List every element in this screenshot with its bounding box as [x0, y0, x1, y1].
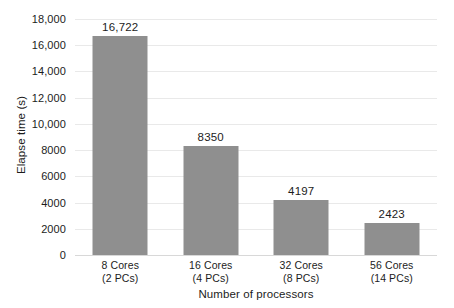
bar-slot: 4197: [256, 19, 347, 255]
x-axis-category-line: 32 Cores: [280, 259, 323, 272]
bar-slot: 2423: [347, 19, 438, 255]
y-axis-tick-label: 18,000: [32, 13, 66, 25]
x-axis-title: Number of processors: [75, 288, 437, 300]
bar-value-label: 4197: [288, 185, 314, 197]
bar[interactable]: [93, 36, 148, 255]
y-axis-tick-label: 14,000: [32, 65, 66, 77]
bar-value-label: 16,722: [102, 21, 138, 33]
gridline: [75, 255, 437, 256]
bar-chart: Elapse time (s) 18,00016,00014,00012,000…: [0, 0, 454, 308]
x-axis-category-line: 8 Cores: [102, 259, 139, 272]
x-axis-category-labels: 8 Cores(2 PCs)16 Cores(4 PCs)32 Cores(8 …: [75, 259, 437, 289]
y-axis-tick-label: 4000: [41, 197, 66, 209]
x-axis-category-line: (2 PCs): [102, 272, 139, 285]
y-axis-tick-label: 8000: [41, 144, 66, 156]
x-axis-category-line: 16 Cores: [189, 259, 232, 272]
bar-value-label: 8350: [198, 131, 224, 143]
y-axis-tick-label: 0: [60, 249, 66, 261]
y-axis-tick-label: 10,000: [32, 118, 66, 130]
y-axis-tick-label: 16,000: [32, 39, 66, 51]
y-axis-tick-label: 6000: [41, 170, 66, 182]
x-axis-category-label: 16 Cores(4 PCs): [189, 259, 232, 285]
x-axis-category-label: 56 Cores(14 PCs): [370, 259, 413, 285]
bar-slot: 8350: [166, 19, 257, 255]
x-axis-category-label: 32 Cores(8 PCs): [280, 259, 323, 285]
y-axis-tick-label: 12,000: [32, 92, 66, 104]
y-axis-tick-label: 2000: [41, 223, 66, 235]
bar-value-label: 2423: [379, 208, 405, 220]
bar-slot: 16,722: [75, 19, 166, 255]
x-axis-category-line: (4 PCs): [189, 272, 232, 285]
bar[interactable]: [183, 146, 238, 255]
bar[interactable]: [274, 200, 329, 255]
x-axis-category-line: 56 Cores: [370, 259, 413, 272]
x-axis-category-line: (8 PCs): [280, 272, 323, 285]
bars-layer: 16,722835041972423: [75, 19, 437, 255]
bar[interactable]: [364, 223, 419, 255]
x-axis-category-label: 8 Cores(2 PCs): [102, 259, 139, 285]
y-axis-tick-labels: 18,00016,00014,00012,00010,0008000600040…: [0, 19, 70, 255]
x-axis-category-line: (14 PCs): [370, 272, 413, 285]
